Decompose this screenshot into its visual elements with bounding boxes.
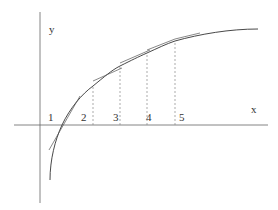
tick-label-4: 4: [146, 111, 152, 123]
dashed-guides: [93, 42, 175, 125]
tick-label-3: 3: [113, 111, 119, 123]
tick-label-2: 2: [81, 111, 87, 123]
tick-label-1: 1: [48, 111, 54, 123]
diagram-canvas: y x 1 2 3 4 5: [0, 0, 278, 210]
tick-label-5: 5: [179, 111, 185, 123]
x-axis-label: x: [251, 103, 257, 115]
function-curve: [50, 29, 258, 180]
graph-svg: y x 1 2 3 4 5: [0, 0, 278, 210]
tangent-lines: [49, 33, 200, 150]
y-axis-label: y: [49, 23, 55, 35]
